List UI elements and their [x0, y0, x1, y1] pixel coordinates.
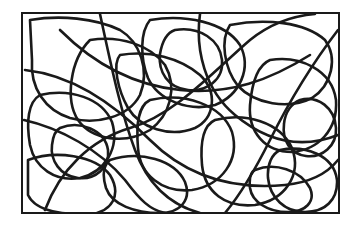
background	[0, 0, 360, 235]
tangled-loops-artwork	[0, 0, 360, 235]
